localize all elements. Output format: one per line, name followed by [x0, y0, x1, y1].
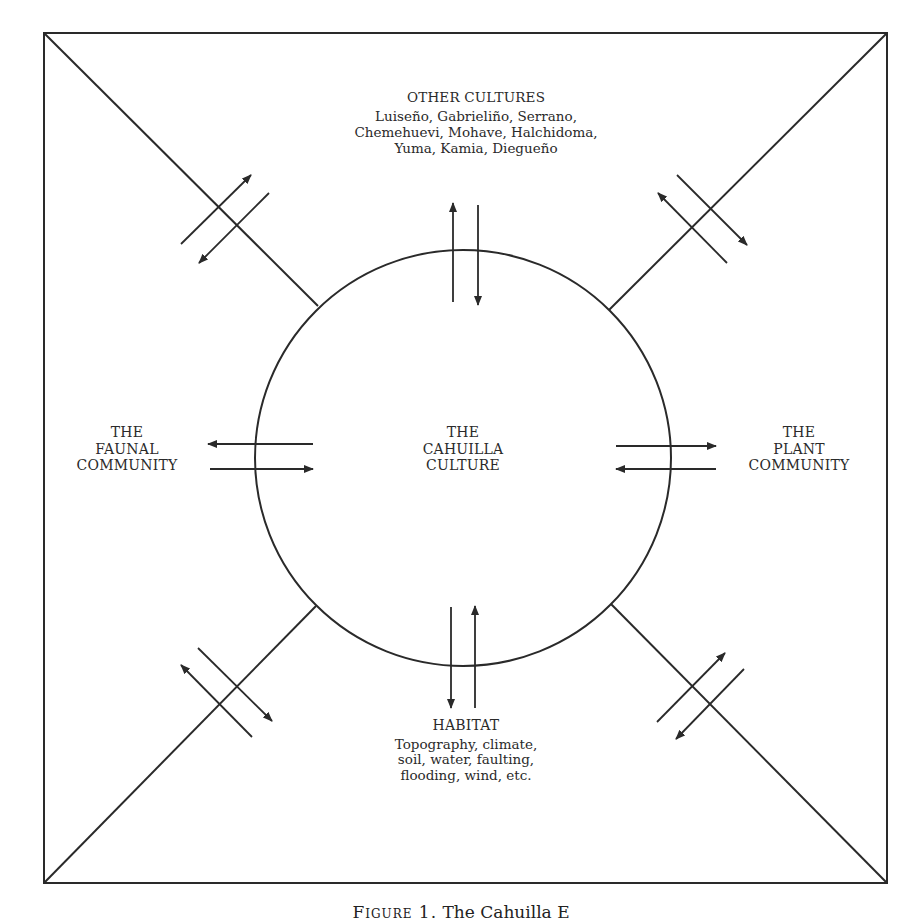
- other-cultures-line-2: Chemehuevi, Mohave, Halchidoma,: [286, 125, 666, 141]
- faunal-line-1: THE: [52, 424, 202, 441]
- arrow-se-bottom-left: [198, 648, 272, 721]
- center-line-2: CAHUILLA: [363, 441, 563, 458]
- center-line-1: THE: [363, 424, 563, 441]
- diagonal-bottom-right: [611, 604, 887, 883]
- other-cultures-line-3: Yuma, Kamia, Diegueño: [286, 141, 666, 157]
- other-cultures-label: OTHER CULTURES Luiseño, Gabrieliño, Serr…: [286, 90, 666, 157]
- diagonal-top-right: [609, 33, 887, 310]
- plant-community-label: THE PLANT COMMUNITY: [724, 424, 874, 474]
- faunal-line-2: FAUNAL: [52, 441, 202, 458]
- arrow-sw-top-left: [199, 193, 269, 263]
- figure-caption-text: The Cahuilla E: [443, 902, 570, 919]
- figure-label: Figure 1.: [352, 902, 437, 919]
- habitat-heading: HABITAT: [326, 717, 606, 734]
- habitat-line-3: flooding, wind, etc.: [326, 768, 606, 784]
- plant-line-3: COMMUNITY: [724, 457, 874, 474]
- diagonal-bottom-left: [44, 606, 316, 883]
- habitat-label: HABITAT Topography, climate, soil, water…: [326, 717, 606, 784]
- figure-caption: Figure 1. The Cahuilla E: [0, 902, 922, 919]
- other-cultures-line-1: Luiseño, Gabrieliño, Serrano,: [286, 109, 666, 125]
- other-cultures-heading: OTHER CULTURES: [286, 90, 666, 106]
- arrow-se-top-right: [677, 175, 747, 245]
- arrow-ne-top-left: [181, 175, 251, 244]
- cahuilla-culture-label: THE CAHUILLA CULTURE: [363, 424, 563, 474]
- habitat-line-2: soil, water, faulting,: [326, 752, 606, 768]
- faunal-community-label: THE FAUNAL COMMUNITY: [52, 424, 202, 474]
- arrow-ne-bottom-right: [657, 653, 725, 722]
- plant-line-1: THE: [724, 424, 874, 441]
- habitat-line-1: Topography, climate,: [326, 737, 606, 753]
- faunal-line-3: COMMUNITY: [52, 457, 202, 474]
- arrow-nw-bottom-left: [181, 665, 252, 737]
- diagonal-top-left: [44, 33, 318, 306]
- center-line-3: CULTURE: [363, 457, 563, 474]
- plant-line-2: PLANT: [724, 441, 874, 458]
